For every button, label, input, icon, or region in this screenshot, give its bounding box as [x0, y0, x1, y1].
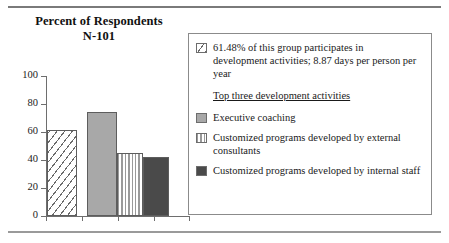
y-axis-label-60: 60: [2, 125, 38, 136]
x-tick-4: [189, 216, 190, 221]
legend-item-label: Customized programs developed by externa…: [213, 131, 423, 157]
y-tick-40: [41, 160, 46, 161]
x-tick-2: [118, 216, 119, 221]
y-tick-100: [41, 76, 46, 77]
vertical-stripe-swatch-icon: [196, 133, 207, 143]
bar-internal-staff: [143, 157, 169, 216]
legend-item-external-consultants: Customized programs developed by externa…: [196, 131, 423, 157]
y-tick-60: [41, 132, 46, 133]
y-axis-label-20: 20: [2, 181, 38, 192]
legend-item-label: Customized programs developed by interna…: [213, 164, 420, 177]
y-tick-80: [41, 104, 46, 105]
solid-gray-swatch-icon: [196, 113, 207, 123]
x-tick-0: [46, 216, 47, 221]
bar-participates: [47, 130, 77, 216]
y-tick-20: [41, 188, 46, 189]
bar-external-consultants: [117, 153, 143, 216]
chart-title-line-2: N-101: [10, 29, 188, 44]
legend-box: 61.48% of this group participates in dev…: [188, 33, 432, 215]
legend-item-label: Executive coaching: [213, 111, 296, 124]
y-axis-label-80: 80: [2, 97, 38, 108]
x-tick-1: [82, 216, 83, 221]
dark-gray-swatch-icon: [196, 166, 207, 176]
chart-title-line-1: Percent of Respondents: [10, 14, 188, 29]
x-tick-3: [154, 216, 155, 221]
y-axis-label-40: 40: [2, 153, 38, 164]
y-axis-label-100: 100: [2, 69, 38, 80]
chart-figure: Percent of Respondents N-101 100 80 60 4…: [0, 0, 449, 243]
plot-area: 100 80 60 40 20 0: [0, 60, 190, 225]
y-axis-label-0: 0: [2, 209, 38, 220]
legend-heading: Top three development activities: [213, 89, 423, 102]
top-divider-rule: [8, 6, 441, 8]
legend-summary-text: 61.48% of this group participates in dev…: [213, 41, 423, 80]
bar-executive-coaching: [87, 112, 117, 216]
bottom-divider-rule: [8, 231, 441, 233]
diagonal-hatch-swatch-icon: [196, 43, 207, 53]
chart-title: Percent of Respondents N-101: [10, 14, 188, 44]
legend-summary-row: 61.48% of this group participates in dev…: [196, 41, 423, 80]
legend-item-executive-coaching: Executive coaching: [196, 111, 423, 124]
legend-item-internal-staff: Customized programs developed by interna…: [196, 164, 423, 177]
